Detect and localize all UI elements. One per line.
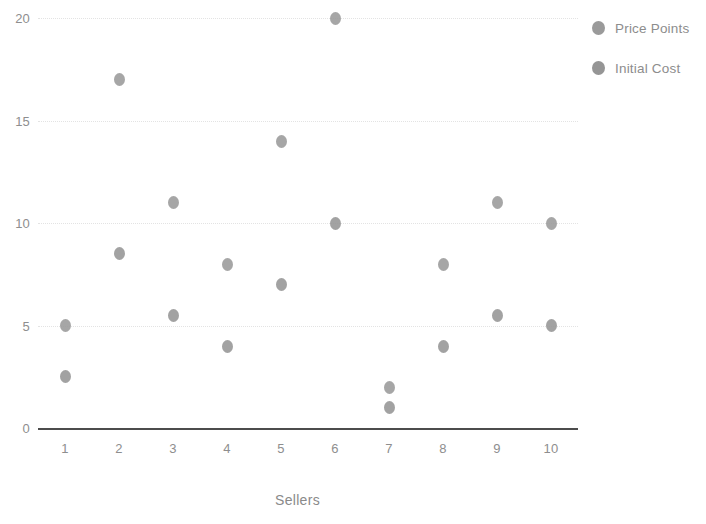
data-point — [384, 401, 395, 414]
x-axis-title: Sellers — [0, 492, 595, 508]
x-axis-tick-label: 6 — [331, 441, 338, 456]
data-point — [222, 340, 233, 353]
scatter-chart: 05101520 12345678910 Sellers Price Point… — [0, 0, 706, 524]
data-point — [114, 247, 125, 260]
y-axis-tick-label: 0 — [0, 421, 30, 436]
data-point — [114, 73, 125, 86]
data-point — [168, 309, 179, 322]
data-point — [492, 309, 503, 322]
data-point — [222, 258, 233, 271]
gridline — [38, 223, 578, 224]
data-point — [60, 319, 71, 332]
data-point — [438, 258, 449, 271]
gridline — [38, 326, 578, 327]
x-axis-tick-label: 7 — [385, 441, 392, 456]
x-axis-tick-label: 9 — [493, 441, 500, 456]
gridline — [38, 121, 578, 122]
data-point — [438, 340, 449, 353]
legend-item-label: Price Points — [615, 21, 689, 36]
data-point — [276, 278, 287, 291]
x-axis-line — [38, 428, 578, 430]
data-point — [276, 135, 287, 148]
data-point — [168, 196, 179, 209]
y-axis-tick-label: 15 — [0, 113, 30, 128]
y-axis-tick-label: 20 — [0, 11, 30, 26]
chart-legend: Price PointsInitial Cost — [592, 8, 706, 88]
data-point — [546, 319, 557, 332]
data-point — [330, 12, 341, 25]
data-point — [492, 196, 503, 209]
circle-marker-icon — [592, 21, 605, 35]
x-axis-tick-label: 4 — [223, 441, 230, 456]
x-axis-tick-label: 1 — [61, 441, 68, 456]
gridline — [38, 18, 578, 19]
x-axis-tick-label: 3 — [169, 441, 176, 456]
y-axis-tick-labels: 05101520 — [0, 18, 30, 428]
data-point — [60, 370, 71, 383]
y-axis-tick-label: 10 — [0, 216, 30, 231]
legend-item-label: Initial Cost — [615, 61, 680, 76]
x-axis-tick-label: 10 — [544, 441, 559, 456]
x-axis-tick-label: 5 — [277, 441, 284, 456]
plot-area — [38, 18, 578, 428]
x-axis-tick-label: 8 — [439, 441, 446, 456]
circle-marker-icon — [592, 61, 605, 75]
data-point — [384, 381, 395, 394]
y-axis-tick-label: 5 — [0, 318, 30, 333]
data-point — [546, 217, 557, 230]
legend-item[interactable]: Initial Cost — [592, 48, 706, 88]
legend-item[interactable]: Price Points — [592, 8, 706, 48]
data-point — [330, 217, 341, 230]
x-axis-tick-label: 2 — [115, 441, 122, 456]
x-axis-tick-labels: 12345678910 — [38, 441, 578, 461]
